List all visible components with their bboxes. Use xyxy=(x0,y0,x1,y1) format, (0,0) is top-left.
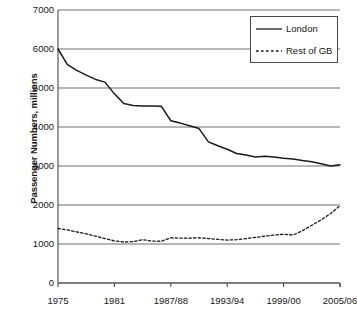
legend-dashed-line-icon xyxy=(256,47,282,55)
chart-legend: London Rest of GB xyxy=(250,16,338,63)
data-series xyxy=(58,49,340,242)
x-axis-tick-label: 1975 xyxy=(47,296,68,306)
legend-label-london: London xyxy=(286,24,318,34)
x-axis-tick-marks xyxy=(58,283,340,287)
x-axis-tick-label: 1981 xyxy=(104,296,125,306)
x-axis-tick-label: 2005/06 xyxy=(323,296,357,306)
series-line-london xyxy=(58,49,340,166)
legend-label-rest-of-gb: Rest of GB xyxy=(286,46,332,56)
x-axis-tick-label: 1999/00 xyxy=(266,296,300,306)
legend-entry-rest-of-gb: Rest of GB xyxy=(256,45,332,57)
x-axis-tick-label: 1987/88 xyxy=(154,296,188,306)
legend-entry-london: London xyxy=(256,23,318,35)
x-axis-tick-label: 1993/94 xyxy=(210,296,244,306)
x-axis-tick-labels: 197519811987/881993/941999/002005/06 xyxy=(0,288,347,310)
legend-solid-line-icon xyxy=(256,25,282,33)
series-line-rest-of-gb xyxy=(58,206,340,242)
